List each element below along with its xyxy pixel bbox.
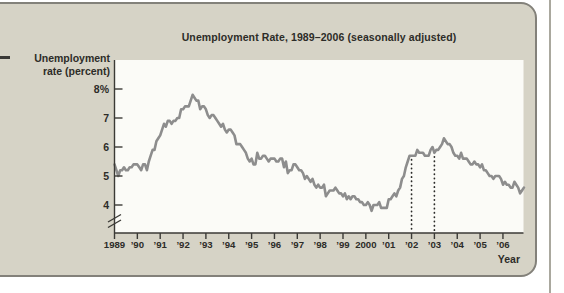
y-tick-label: 5 (103, 170, 109, 182)
x-axis-label: Year (430, 253, 520, 265)
y-tick-label: 6 (103, 141, 109, 153)
x-tick-label: ’97 (291, 239, 304, 250)
x-tick-label: ’92 (176, 239, 189, 250)
y-tick-label: 8% (94, 83, 110, 95)
x-tick-labels: 1989’90’91’92’93’94’95’96’97’98’992000’0… (104, 239, 510, 250)
y-tick-label: 7 (103, 112, 109, 124)
x-tick-label: ’94 (222, 239, 236, 250)
x-tick-label: ’02 (405, 239, 418, 250)
plot-area (115, 60, 524, 233)
x-tick-label: ’06 (496, 239, 509, 250)
x-tick-label: ’93 (199, 239, 212, 250)
x-tick-label: ’01 (382, 239, 396, 250)
x-tick-label: ’95 (245, 239, 259, 250)
x-tick-label: ’98 (313, 239, 327, 250)
y-tick-labels: 8%7654 (94, 83, 110, 211)
x-tick-label: ’91 (154, 239, 168, 250)
x-tick-label: 1989 (104, 239, 125, 250)
x-tick-label: 2000 (355, 239, 376, 250)
x-tick-label: ’03 (428, 239, 441, 250)
x-tick-label: ’96 (268, 239, 281, 250)
x-ticks (115, 233, 503, 239)
x-tick-label: ’05 (473, 239, 487, 250)
x-tick-label: ’04 (451, 239, 465, 250)
x-tick-label: ’99 (336, 239, 349, 250)
x-tick-label: ’90 (131, 239, 144, 250)
chart-canvas: 8%7654 1989’90’91’92’93’94’95’96’97’98’9… (0, 0, 564, 293)
y-tick-label: 4 (103, 199, 109, 211)
screenshot: Unemployment Rate, 1989–2006 (seasonally… (0, 0, 564, 293)
